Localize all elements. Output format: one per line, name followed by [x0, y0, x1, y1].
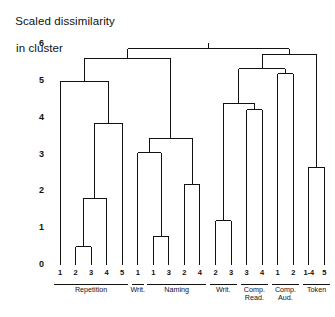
y-tick-label: 5: [30, 75, 44, 85]
leaf-label: 2: [213, 268, 217, 277]
leaf-label: 2: [291, 268, 295, 277]
y-tick-label: 3: [30, 149, 44, 159]
leaf-label: 4: [198, 268, 202, 277]
y-tick-label: 2: [30, 185, 44, 195]
dendrogram-figure: Scaled dissimilarity in cluster 0123456 …: [0, 0, 335, 317]
leaf-label: 4: [260, 268, 264, 277]
leaf-label: 3: [89, 268, 93, 277]
leaf-label: 2: [182, 268, 186, 277]
leaf-label: 3: [229, 268, 233, 277]
y-tick-label: 1: [30, 222, 44, 232]
leaf-label: 3: [245, 268, 249, 277]
dendrogram-branches: [60, 43, 324, 265]
leaf-label: 1: [136, 268, 140, 277]
y-tick-label: 4: [30, 112, 44, 122]
leaf-label: 3: [167, 268, 171, 277]
y-tick-label: 0: [30, 259, 44, 269]
y-tick-label: 6: [30, 38, 44, 48]
leaf-label: 1: [276, 268, 280, 277]
group-label: Repetition: [68, 286, 114, 294]
group-label: Naming: [154, 286, 200, 294]
leaf-label: 5: [120, 268, 124, 277]
leaf-label: 5: [322, 268, 326, 277]
group-label: Token: [294, 286, 335, 294]
leaf-label: 2: [73, 268, 77, 277]
leaf-label: 1: [151, 268, 155, 277]
leaf-label: 4: [105, 268, 109, 277]
leaf-label: 1: [58, 268, 62, 277]
leaf-label: 1-4: [303, 268, 314, 277]
